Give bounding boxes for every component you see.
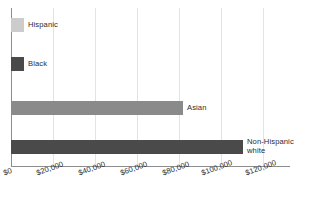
bar-label-asian: Asian xyxy=(187,104,207,113)
bar-label-non-hispanic-white: Non-Hispanic white xyxy=(247,138,294,155)
bar-label-hispanic: Hispanic xyxy=(28,21,58,30)
bar-chart: Hispanic Black Asian Non-Hispanic white … xyxy=(0,0,310,200)
bar-row-asian: Asian xyxy=(11,101,207,115)
x-axis-line xyxy=(11,166,290,167)
bar-label-black: Black xyxy=(28,60,47,69)
x-tick-0: $0 xyxy=(2,166,13,177)
bar-asian xyxy=(11,101,183,115)
bar-hispanic xyxy=(11,18,24,32)
bar-non-hispanic-white xyxy=(11,140,243,154)
bar-black xyxy=(11,57,24,71)
bar-row-hispanic: Hispanic xyxy=(11,18,58,32)
bar-row-black: Black xyxy=(11,57,47,71)
bar-row-non-hispanic-white: Non-Hispanic white xyxy=(11,140,294,154)
